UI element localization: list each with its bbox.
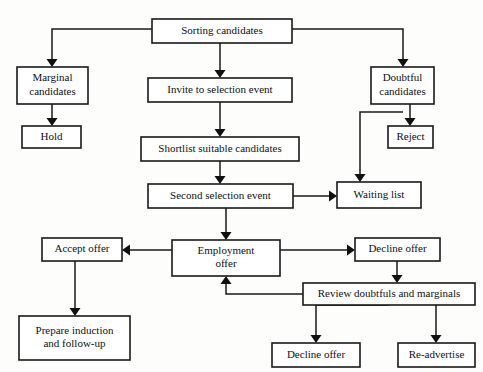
nodes-layer: Sorting candidatesMarginalcandidatesInvi…	[17, 19, 475, 367]
node-label-reject: Reject	[396, 130, 424, 142]
node-label-prepare: Prepare induction	[36, 324, 114, 336]
node-label-doubtful: Doubtful	[383, 71, 423, 83]
node-decline2[interactable]: Decline offer	[272, 343, 360, 367]
arrowhead-icon	[47, 59, 58, 67]
arrowhead-icon	[329, 191, 337, 202]
node-readvert[interactable]: Re-advertise	[398, 343, 475, 367]
edge-review-to-readvert	[431, 305, 442, 343]
edge-accept-to-prepare	[70, 261, 81, 316]
node-label-review: Review doubtfuls and marginals	[318, 287, 460, 299]
arrowhead-icon	[431, 335, 442, 343]
node-decline1[interactable]: Decline offer	[355, 238, 440, 261]
arrowhead-icon	[122, 245, 130, 256]
arrowhead-icon	[311, 335, 322, 343]
edge-employ-to-accept	[122, 245, 172, 256]
arrowhead-icon	[355, 174, 366, 182]
edge-doubtful-to-reject	[405, 104, 416, 126]
node-label-hold: Hold	[41, 130, 64, 142]
node-label-shortlist: Shortlist suitable candidates	[158, 142, 281, 154]
node-label-decline2: Decline offer	[287, 348, 345, 360]
node-label-marginal: candidates	[29, 85, 75, 97]
arrowhead-icon	[405, 118, 416, 126]
node-label-employ: offer	[215, 257, 237, 269]
node-waiting[interactable]: Waiting list	[337, 182, 421, 208]
edge-review-to-employ	[221, 276, 304, 294]
node-employ[interactable]: Employmentoffer	[172, 240, 280, 276]
node-label-prepare: and follow-up	[43, 337, 106, 349]
arrowhead-icon	[392, 275, 403, 283]
node-label-invite: Invite to selection event	[167, 83, 272, 95]
edge-invite-to-shortlist	[215, 102, 226, 137]
arrowhead-icon	[215, 70, 226, 78]
node-shortlist[interactable]: Shortlist suitable candidates	[141, 137, 299, 161]
arrowhead-icon	[70, 308, 81, 316]
edge-employ-to-decline1	[280, 245, 355, 256]
edge-shortlist-to-second	[215, 161, 226, 184]
arrowhead-icon	[347, 245, 355, 256]
arrowhead-icon	[398, 59, 409, 67]
node-label-sorting: Sorting candidates	[181, 24, 263, 36]
node-label-accept: Accept offer	[54, 242, 109, 254]
arrowhead-icon	[47, 118, 58, 126]
node-label-second: Second selection event	[170, 189, 271, 201]
node-doubtful[interactable]: Doubtfulcandidates	[371, 67, 434, 104]
node-label-decline1: Decline offer	[368, 242, 426, 254]
arrowhead-icon	[215, 176, 226, 184]
node-label-doubtful: candidates	[379, 85, 425, 97]
edge-sorting-to-doubtful	[292, 29, 409, 67]
node-hold[interactable]: Hold	[22, 126, 81, 148]
node-label-employ: Employment	[198, 244, 255, 256]
node-marginal[interactable]: Marginalcandidates	[17, 67, 88, 104]
arrowhead-icon	[215, 129, 226, 137]
edge-second-to-waiting	[293, 191, 337, 202]
edge-review-to-decline2	[311, 305, 390, 343]
node-second[interactable]: Second selection event	[148, 184, 293, 208]
node-reject[interactable]: Reject	[388, 126, 433, 148]
node-invite[interactable]: Invite to selection event	[148, 78, 292, 102]
node-label-marginal: Marginal	[32, 71, 72, 83]
arrowhead-icon	[221, 276, 232, 284]
edge-second-to-employ	[221, 208, 232, 240]
edge-marginal-to-hold	[47, 104, 58, 126]
node-accept[interactable]: Accept offer	[42, 238, 122, 261]
node-prepare[interactable]: Prepare inductionand follow-up	[19, 316, 130, 360]
flowchart-page: Sorting candidatesMarginalcandidatesInvi…	[0, 0, 483, 372]
flowchart-canvas: Sorting candidatesMarginalcandidatesInvi…	[0, 0, 483, 372]
node-label-waiting: Waiting list	[354, 188, 405, 200]
node-sorting[interactable]: Sorting candidates	[152, 19, 292, 43]
edge-sorting-to-invite	[215, 43, 226, 78]
edge-decline1-to-review	[392, 261, 403, 283]
edge-sorting-to-marginal	[47, 29, 153, 67]
node-review[interactable]: Review doubtfuls and marginals	[303, 283, 475, 305]
arrowhead-icon	[221, 232, 232, 240]
node-label-readvert: Re-advertise	[409, 348, 465, 360]
